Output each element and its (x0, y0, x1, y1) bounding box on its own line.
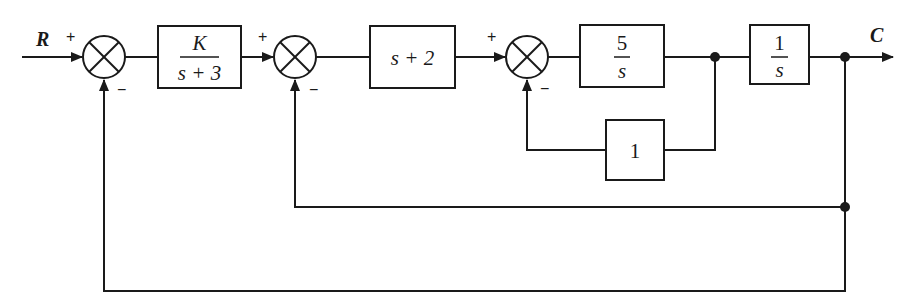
sum2-plus-sign: + (258, 28, 267, 45)
sum3-plus-sign: + (487, 28, 496, 45)
forward-inner-numerator: 5 (617, 31, 628, 55)
integrator-block: 1 s (750, 25, 809, 84)
input-label: R (35, 28, 49, 50)
output-label: C (870, 24, 884, 46)
sum1-plus-sign: + (66, 28, 75, 45)
integrator-denominator: s (775, 58, 783, 82)
summing-junction-2: − (274, 36, 318, 98)
block-diagram: R + − K s + 3 + − s + 2 + − (0, 0, 923, 305)
controller-numerator: K (191, 31, 207, 55)
controller-denominator: s + 3 (178, 61, 221, 85)
forward-inner-denominator: s (618, 59, 626, 83)
outer-feedback-loop (104, 80, 845, 291)
lead-block-text: s + 2 (391, 46, 435, 70)
controller-block: K s + 3 (158, 26, 241, 88)
inner-feedback-gain: 1 (630, 139, 641, 163)
lead-block: s + 2 (370, 26, 455, 88)
input-signal: R + (22, 28, 82, 57)
output-signal: C (809, 24, 893, 62)
sum3-minus-sign: − (540, 80, 549, 97)
sum1-minus-sign: − (117, 81, 126, 98)
forward-inner-block: 5 s (580, 25, 664, 87)
integrator-numerator: 1 (774, 31, 785, 55)
sum2-minus-sign: − (309, 81, 318, 98)
